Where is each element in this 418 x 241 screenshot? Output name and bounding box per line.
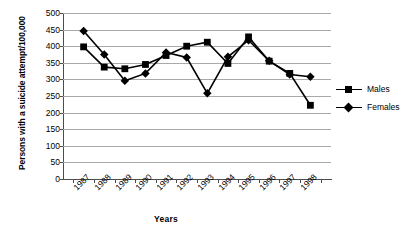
data-point-males (142, 61, 149, 68)
x-axis-tick-mark (156, 179, 157, 183)
y-axis-tick-mark (60, 162, 63, 163)
x-axis-tick-mark (73, 179, 74, 183)
legend-item-males[interactable]: Males (336, 80, 400, 98)
x-axis-tick-mark (135, 179, 136, 183)
line-chart: Persons with a suicide attempt/100,000 5… (0, 0, 418, 241)
series-line-females (84, 31, 311, 93)
data-point-males (80, 43, 87, 50)
data-point-males (121, 65, 128, 72)
x-axis-tick-mark (321, 179, 322, 183)
legend-diamond-marker-icon (336, 102, 362, 112)
chart-legend: MalesFemales (336, 80, 400, 116)
data-point-males (183, 43, 190, 50)
legend-label: Males (367, 84, 390, 94)
y-axis-tick-mark (60, 179, 63, 180)
y-axis-tick-mark (60, 79, 63, 80)
y-axis-tick-mark (60, 13, 63, 14)
x-axis-tick-mark (279, 179, 280, 183)
y-axis-tick-mark (60, 113, 63, 114)
data-series-layer (0, 0, 418, 241)
legend-item-females[interactable]: Females (336, 98, 400, 116)
y-axis-tick-mark (60, 96, 63, 97)
data-point-females (182, 53, 191, 62)
x-axis-tick-mark (176, 179, 177, 183)
x-axis-tick-mark (218, 179, 219, 183)
data-point-females (203, 89, 212, 98)
x-axis-tick-mark (259, 179, 260, 183)
data-point-males (101, 64, 108, 71)
y-axis-tick-mark (60, 129, 63, 130)
data-point-males (204, 39, 211, 46)
legend-square-marker-icon (336, 84, 362, 94)
x-axis-tick-mark (197, 179, 198, 183)
data-point-females (306, 72, 315, 81)
x-axis-tick-mark (300, 179, 301, 183)
data-point-males (307, 102, 314, 109)
x-axis-tick-mark (115, 179, 116, 183)
y-axis-tick-mark (60, 63, 63, 64)
x-axis-tick-mark (94, 179, 95, 183)
y-axis-tick-mark (60, 146, 63, 147)
y-axis-tick-mark (60, 30, 63, 31)
x-axis-tick-mark (238, 179, 239, 183)
legend-label: Females (367, 102, 400, 112)
y-axis-tick-mark (60, 46, 63, 47)
